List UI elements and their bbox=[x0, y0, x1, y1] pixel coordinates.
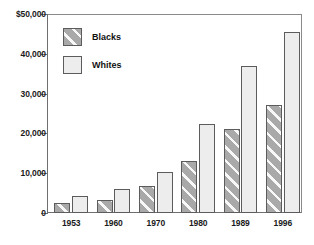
bar-whites bbox=[284, 32, 300, 213]
legend-label-whites: Whites bbox=[92, 60, 122, 70]
y-axis-label: $50,000 bbox=[0, 9, 46, 19]
bar-blacks bbox=[266, 105, 282, 213]
bar-whites bbox=[157, 172, 173, 213]
y-axis-label: 20,000 bbox=[0, 128, 46, 138]
y-axis-label: 30,000 bbox=[0, 89, 46, 99]
hatched-gray-swatch-icon bbox=[63, 28, 82, 46]
bar-whites bbox=[241, 66, 257, 213]
bar-blacks bbox=[139, 186, 155, 213]
bar-whites bbox=[114, 189, 130, 213]
x-axis-label: 1960 bbox=[104, 218, 123, 228]
x-axis-label: 1989 bbox=[231, 218, 250, 228]
bar-blacks bbox=[97, 200, 113, 213]
y-axis-label: 10,000 bbox=[0, 168, 46, 178]
y-axis-label: 40,000 bbox=[0, 49, 46, 59]
x-axis-label: 1980 bbox=[189, 218, 208, 228]
chart-legend: Blacks Whites bbox=[63, 26, 122, 82]
x-axis-label: 1996 bbox=[274, 218, 293, 228]
legend-label-blacks: Blacks bbox=[92, 32, 121, 42]
grouped-bar-chart: 010,00020,00030,00040,000$50,000 1953196… bbox=[0, 0, 314, 245]
light-gray-swatch-icon bbox=[63, 56, 82, 74]
bar-whites bbox=[199, 124, 215, 213]
legend-item-blacks: Blacks bbox=[63, 26, 122, 48]
legend-item-whites: Whites bbox=[63, 54, 122, 76]
y-axis-label: 0 bbox=[0, 208, 46, 218]
x-axis-label: 1953 bbox=[62, 218, 81, 228]
bar-whites bbox=[72, 196, 88, 213]
bar-blacks bbox=[54, 203, 70, 213]
bar-blacks bbox=[224, 129, 240, 213]
x-axis-label: 1970 bbox=[147, 218, 166, 228]
bar-blacks bbox=[181, 161, 197, 213]
